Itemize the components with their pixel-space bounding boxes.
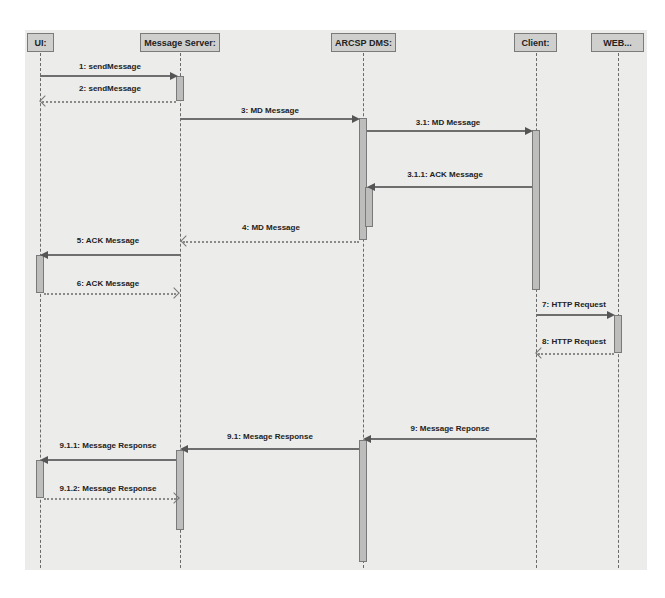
message-label-2: 2: sendMessage bbox=[79, 84, 141, 93]
arrow-head-icon bbox=[367, 183, 375, 191]
message-label-1: 1: sendMessage bbox=[79, 62, 141, 71]
message-label-9-1: 9.1: Mesage Response bbox=[227, 432, 313, 441]
message-arrow-1 bbox=[40, 75, 174, 77]
message-arrow-7 bbox=[536, 314, 612, 316]
participant-arcsp-dms: ARCSP DMS: bbox=[331, 33, 396, 52]
message-label-8: 8: HTTP Request bbox=[542, 337, 606, 346]
arrow-head-icon bbox=[363, 435, 371, 443]
activation-client-1 bbox=[532, 130, 540, 290]
message-arrow-4 bbox=[183, 241, 359, 243]
participant-web: WEB... bbox=[591, 33, 644, 52]
activation-ui-2 bbox=[36, 460, 44, 498]
message-label-3: 3: MD Message bbox=[241, 106, 299, 115]
participant-client: Client: bbox=[514, 33, 557, 52]
message-label-6: 6: ACK Message bbox=[77, 279, 139, 288]
message-arrow-6 bbox=[44, 293, 176, 295]
message-arrow-3 bbox=[180, 118, 357, 120]
message-label-9-1-1: 9.1.1: Message Response bbox=[60, 441, 157, 450]
message-label-9: 9: Message Reponse bbox=[410, 424, 489, 433]
message-arrow-3-1 bbox=[367, 130, 530, 132]
message-arrow-9 bbox=[369, 438, 536, 440]
arrow-head-icon bbox=[40, 456, 48, 464]
arrow-head-icon bbox=[40, 251, 48, 259]
message-label-3-1-1: 3.1.1: ACK Message bbox=[407, 170, 483, 179]
message-label-3-1: 3.1: MD Message bbox=[416, 118, 480, 127]
arrow-head-icon bbox=[525, 127, 533, 135]
message-label-4: 4: MD Message bbox=[242, 223, 300, 232]
activation-arcsp-dms-nested bbox=[365, 187, 373, 227]
participant-message-server: Message Server: bbox=[140, 33, 220, 52]
arrow-head-icon bbox=[352, 115, 360, 123]
activation-web-1 bbox=[614, 315, 622, 353]
participant-ui: UI: bbox=[27, 33, 54, 52]
message-arrow-9-1-1 bbox=[46, 459, 176, 461]
arrow-head-icon bbox=[180, 445, 188, 453]
lifeline-web bbox=[618, 53, 619, 568]
message-label-7: 7: HTTP Request bbox=[542, 300, 606, 309]
message-label-5: 5: ACK Message bbox=[77, 236, 139, 245]
arrow-head-icon bbox=[607, 311, 615, 319]
message-arrow-8 bbox=[538, 353, 614, 355]
activation-message-server-2 bbox=[176, 450, 184, 530]
message-label-9-1-2: 9.1.2: Message Response bbox=[60, 484, 157, 493]
activation-arcsp-dms-2 bbox=[359, 440, 367, 562]
message-arrow-5 bbox=[46, 254, 180, 256]
message-arrow-9-1 bbox=[186, 448, 359, 450]
message-arrow-9-1-2 bbox=[44, 498, 176, 500]
activation-ui-1 bbox=[36, 255, 44, 293]
message-arrow-2 bbox=[42, 101, 176, 103]
message-arrow-3-1-1 bbox=[373, 186, 532, 188]
arrow-head-icon bbox=[170, 72, 178, 80]
